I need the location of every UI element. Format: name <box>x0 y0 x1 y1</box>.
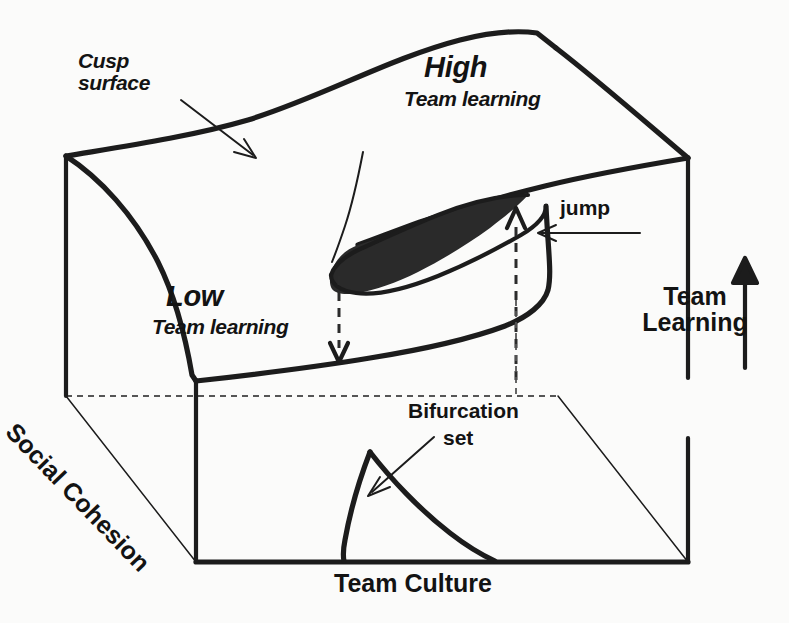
low-region-label: Low <box>166 281 223 311</box>
bifurcation-set-right-branch <box>370 452 495 561</box>
jump-label: jump <box>560 197 610 219</box>
team-learning-axis-label: Team Learning <box>635 283 755 336</box>
high-region-label: High <box>424 52 487 82</box>
high-region-sublabel: Team learning <box>404 88 540 110</box>
team-learning-axis-arrow-head <box>733 258 757 283</box>
cusp-surface-right-rim <box>556 48 688 158</box>
bifurcation-set-sublabel: set <box>443 427 473 449</box>
cusp-surface-label-line1: Cusp <box>78 50 150 72</box>
cusp-catastrophe-figure: Cusp surface High Team learning Low Team… <box>0 0 789 623</box>
base-plane-right-diagonal <box>558 396 688 562</box>
team-culture-axis-label: Team Culture <box>313 570 513 596</box>
cusp-surface-arrow-shaft <box>181 100 253 155</box>
bifurcation-set-label: Bifurcation <box>408 400 519 422</box>
low-region-sublabel: Team learning <box>152 316 288 338</box>
team-learning-axis-label-line1: Team <box>635 283 755 309</box>
lower-sheet-left-edge <box>66 156 196 381</box>
team-learning-axis-label-line2: Learning <box>635 309 755 335</box>
cusp-surface-label: Cusp surface <box>78 50 150 94</box>
cusp-surface-label-line2: surface <box>78 72 150 94</box>
bifurcation-set-left-branch <box>343 452 370 561</box>
